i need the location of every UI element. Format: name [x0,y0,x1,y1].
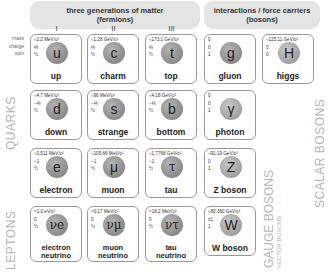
charge-label: charge [4,43,24,51]
mass-value: ≈80.360 GeV/c² [208,209,240,214]
higgs-symbol: H [278,42,300,64]
particle-bottom[interactable]: ≈4.18 GeV/c² −⅓ ½ b bottom [145,90,197,140]
charge-value: −1 [149,159,154,164]
z-boson-symbol: Z [220,156,242,178]
spin-value: 1 [208,224,211,229]
particle-name: down [31,128,81,137]
particle-name: gluon [205,72,255,81]
charge-value: −⅓ [91,101,98,106]
bottom-quark-symbol: b [161,98,183,120]
spin-value: ½ [34,166,38,171]
vector-bosons-label: VECTOR BOSONS [276,216,282,268]
quarks-label: QUARKS [4,96,18,150]
spin-value: ½ [91,52,95,57]
particle-name: photon [205,128,255,137]
spin-value: 0 [266,52,269,57]
charge-value: ⅔ [34,45,38,50]
strange-quark-symbol: s [103,98,125,120]
bosons-header: interactions / force carriers(bosons) [204,1,320,29]
spin-value: ½ [34,108,38,113]
spin-value: ½ [149,108,153,113]
mass-value: <1.0 eV/c² [34,209,55,214]
spin-label: spin [4,50,24,58]
spin-value: ½ [91,108,95,113]
particle-name: bottom [146,128,196,137]
particle-name: W boson [205,244,255,253]
spin-value: 1 [208,108,211,113]
charge-value: ⅔ [149,45,153,50]
mass-value: 0 [208,37,211,42]
muon-symbol: μ [103,156,125,178]
particle-gluon[interactable]: 0 0 1 g gluon [204,34,256,84]
charge-value: 0 [208,45,211,50]
particle-up[interactable]: ≈2.2 MeV/c² ⅔ ½ u up [30,34,82,84]
particle-name: electronneutrino [31,244,81,260]
particle-muon-neutrino[interactable]: <0.17 MeV/c² 0 ½ νμ muonneutrino [87,206,139,262]
fermions-header-line1: three generations of matter [66,6,163,15]
particle-tau-neutrino[interactable]: <18.2 MeV/c² 0 ½ ντ tauneutrino [145,206,197,262]
particle-name-line2: neutrino [31,252,81,260]
spin-value: ½ [149,52,153,57]
gauge-bosons-label: GAUGE BOSONS [262,170,276,268]
charge-value: ±1 [208,217,213,222]
fermions-header-line2: (fermions) [66,15,163,24]
particle-tau[interactable]: ≈1.7768 GeV/c² −1 ½ τ tau [145,148,197,198]
particle-photon[interactable]: 0 0 1 γ photon [204,90,256,140]
particle-name: tau [146,186,196,195]
particle-muon[interactable]: ≈105.66 MeV/c² −1 ½ μ muon [87,148,139,198]
spin-value: 1 [208,52,211,57]
generation-3-label: III [145,24,198,33]
particle-name: muon [88,186,138,195]
gluon-symbol: g [220,42,242,64]
spin-value: ½ [34,52,38,57]
charm-quark-symbol: c [103,42,125,64]
particle-electron-neutrino[interactable]: <1.0 eV/c² 0 ½ νe electronneutrino [30,206,82,262]
up-quark-symbol: u [46,42,68,64]
particle-name: up [31,72,81,81]
top-quark-symbol: t [161,42,183,64]
particle-w-boson[interactable]: ≈80.360 GeV/c² ±1 1 W W boson [204,206,256,256]
electron-symbol: e [46,156,68,178]
particle-name: Z boson [205,186,255,195]
particle-name: electron [31,186,81,195]
spin-value: ½ [149,166,153,171]
charge-value: 0 [266,45,269,50]
mass-label: mass [4,35,24,43]
particle-charm[interactable]: ≈1.28 GeV/c² ⅔ ½ c charm [87,34,139,84]
charge-value: 0 [34,217,37,222]
muon-neutrino-symbol: νμ [103,214,125,236]
generation-1-label: I [30,24,83,33]
leptons-label: LEPTONS [4,211,18,270]
spin-value: ½ [34,224,38,229]
particle-higgs[interactable]: ≈125.11 GeV/c² 0 0 H higgs [262,34,314,84]
generation-2-label: II [87,24,140,33]
charge-value: 0 [149,217,152,222]
particle-name: muonneutrino [88,244,138,260]
w-boson-symbol: W [220,214,242,236]
down-quark-symbol: d [46,98,68,120]
particle-electron[interactable]: ≈0.511 MeV/c² −1 ½ e electron [30,148,82,198]
bosons-header-line1: interactions / force carriers [214,6,311,15]
charge-value: −1 [91,159,96,164]
particle-name: higgs [263,72,313,81]
charge-value: 0 [91,217,94,222]
charge-value: ⅔ [91,45,95,50]
charge-value: 0 [208,101,211,106]
particle-strange[interactable]: ≈96 MeV/c² −⅓ ½ s strange [87,90,139,140]
particle-name: charm [88,72,138,81]
spin-value: ½ [91,166,95,171]
particle-down[interactable]: ≈4.7 MeV/c² −⅓ ½ d down [30,90,82,140]
spin-value: 1 [208,166,211,171]
charge-value: −⅓ [34,101,41,106]
charge-value: −⅓ [149,101,156,106]
spin-value: ½ [91,224,95,229]
mass-value: ≈125.11 GeV/c² [266,37,298,42]
property-labels: mass charge spin [4,35,24,58]
mass-value: ≈105.66 MeV/c² [91,151,123,156]
particle-name: strange [88,128,138,137]
particle-top[interactable]: ≈173.1 GeV/c² ⅔ ½ t top [145,34,197,84]
tau-symbol: τ [161,156,183,178]
particle-z-boson[interactable]: ≈91.19 GeV/c² 0 1 Z Z boson [204,148,256,198]
scalar-bosons-label: SCALAR BOSONS [313,99,327,208]
particle-name-line2: neutrino [88,252,138,260]
